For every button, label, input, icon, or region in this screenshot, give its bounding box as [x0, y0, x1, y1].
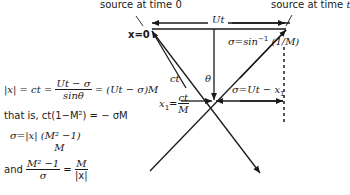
equation-1: |x| = ct = Ut − σsinθ = (Ut − σ)M [4, 78, 158, 101]
eq3-lhs: σ=|x| (M² −1) [10, 130, 81, 142]
sigma-sym: σ=sin [228, 36, 258, 47]
x1-num: ct [178, 92, 190, 104]
sourcet-pointer [286, 15, 292, 26]
eq1-lhs: |x| = ct = [4, 84, 55, 95]
source-timet-var: t [346, 0, 350, 10]
equation-2: that is, ct(1−M²) = − σM [4, 110, 128, 121]
equation-3: σ=|x| (M² −1)M [10, 130, 81, 153]
eq3-den: M [10, 142, 81, 153]
theta-label: θ [205, 73, 211, 84]
x1-label: x1=ctM [159, 92, 189, 115]
eq4-prefix: and [4, 164, 26, 175]
eq4-rnum: M [75, 158, 88, 170]
ct-label: ct [170, 73, 180, 84]
sigma-ut-x1-label: σ=Ut − x1 [232, 84, 285, 98]
sigma-arcsin-label: σ=sin−1 (1/M) [228, 35, 299, 47]
eq4-right-fraction: M|x| [75, 158, 88, 181]
arcsin-exp: −1 [258, 35, 268, 43]
eq1-num: Ut − σ [55, 78, 91, 90]
sigma-ut-x1-text: σ=Ut − x [232, 84, 280, 95]
eq4-den: σ [26, 170, 60, 181]
eq4-num: M² −1 [26, 158, 60, 170]
eq3-fraction: σ=|x| (M² −1)M [10, 130, 81, 153]
eq4-rden: |x| [75, 170, 88, 181]
equation-4: and M² −1σ = M|x| [4, 158, 88, 181]
x-zero-label: x=0 [128, 29, 150, 40]
source-timet-text: source at time [271, 0, 346, 10]
x1-den: M [178, 104, 190, 115]
sigma-ut-x1-sub: 1 [280, 90, 284, 98]
eq4-left-fraction: M² −1σ [26, 158, 60, 181]
eq1-fraction: Ut − σsinθ [55, 78, 91, 101]
ut-label: Ut [208, 14, 228, 25]
eq1-rhs: = (Ut − σ)M [92, 84, 159, 95]
arcsin-arg: (1/M) [272, 36, 300, 47]
eq4-eq: = [60, 164, 75, 175]
source0-pointer [136, 16, 143, 26]
source-timet-label: source at time t [271, 0, 350, 10]
source-time0-label: source at time 0 [100, 0, 182, 10]
x1-fraction: ctM [178, 92, 190, 115]
x1-eq: = [169, 98, 177, 109]
eq1-den: sinθ [55, 90, 91, 101]
